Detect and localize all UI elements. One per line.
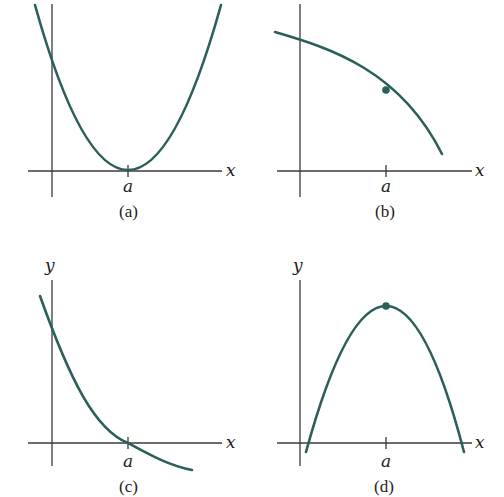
y-axis-label: y (292, 255, 303, 275)
caption: (b) (375, 202, 395, 221)
x-axis-label: x (226, 160, 236, 180)
caption: (d) (374, 477, 394, 496)
curve (35, 5, 221, 170)
tick-label-a: a (381, 451, 391, 471)
curve (40, 296, 192, 470)
panel-d: y x a (d) (277, 255, 485, 496)
maximum-point (382, 302, 390, 310)
x-axis-label: x (226, 432, 236, 452)
panel-b: x a (b) (275, 4, 485, 221)
x-axis-label: x (475, 160, 485, 180)
caption: (a) (119, 202, 138, 221)
tick-label-a: a (381, 176, 391, 196)
tick-label-a: a (123, 451, 133, 471)
tick-label-a: a (123, 176, 133, 196)
caption: (c) (119, 477, 138, 496)
curve (306, 306, 464, 452)
point-at-a (382, 86, 390, 94)
figure: x a (a) x a (b) y x a (c) y x a (d) (0, 0, 504, 497)
x-axis-label: x (475, 432, 485, 452)
panel-a: x a (a) (28, 4, 236, 221)
y-axis-label: y (44, 255, 55, 275)
panel-c: y x a (c) (28, 255, 236, 496)
